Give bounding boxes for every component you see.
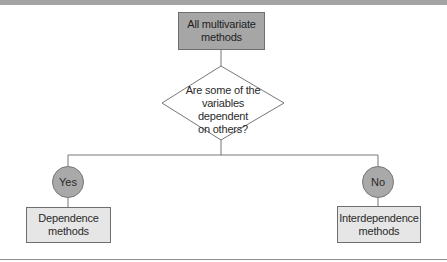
dependence-line-2: methods (48, 225, 89, 237)
interdependence-line-2: methods (359, 225, 400, 237)
dependence-line-1: Dependence (38, 212, 98, 224)
root-line-1: All multivariate (187, 18, 255, 30)
answer-no-label: No (371, 176, 385, 188)
root-line-2: methods (201, 31, 242, 43)
answer-yes-label: Yes (59, 176, 77, 188)
dependence-methods-node: Dependence methods (26, 207, 111, 243)
decision-line-1: Are some of the (186, 84, 261, 96)
root-node-all-multivariate-methods: All multivariate methods (178, 12, 265, 50)
bottom-divider (0, 259, 447, 260)
answer-no-node: No (362, 166, 394, 198)
decision-question: Are some of the variables dependent on o… (180, 84, 266, 136)
interdependence-methods-node: Interdependence methods (337, 206, 421, 243)
interdependence-line-1: Interdependence (339, 212, 419, 224)
answer-yes-node: Yes (52, 166, 84, 198)
decision-line-3: on others? (198, 123, 248, 135)
decision-line-2: variables dependent (198, 97, 248, 122)
